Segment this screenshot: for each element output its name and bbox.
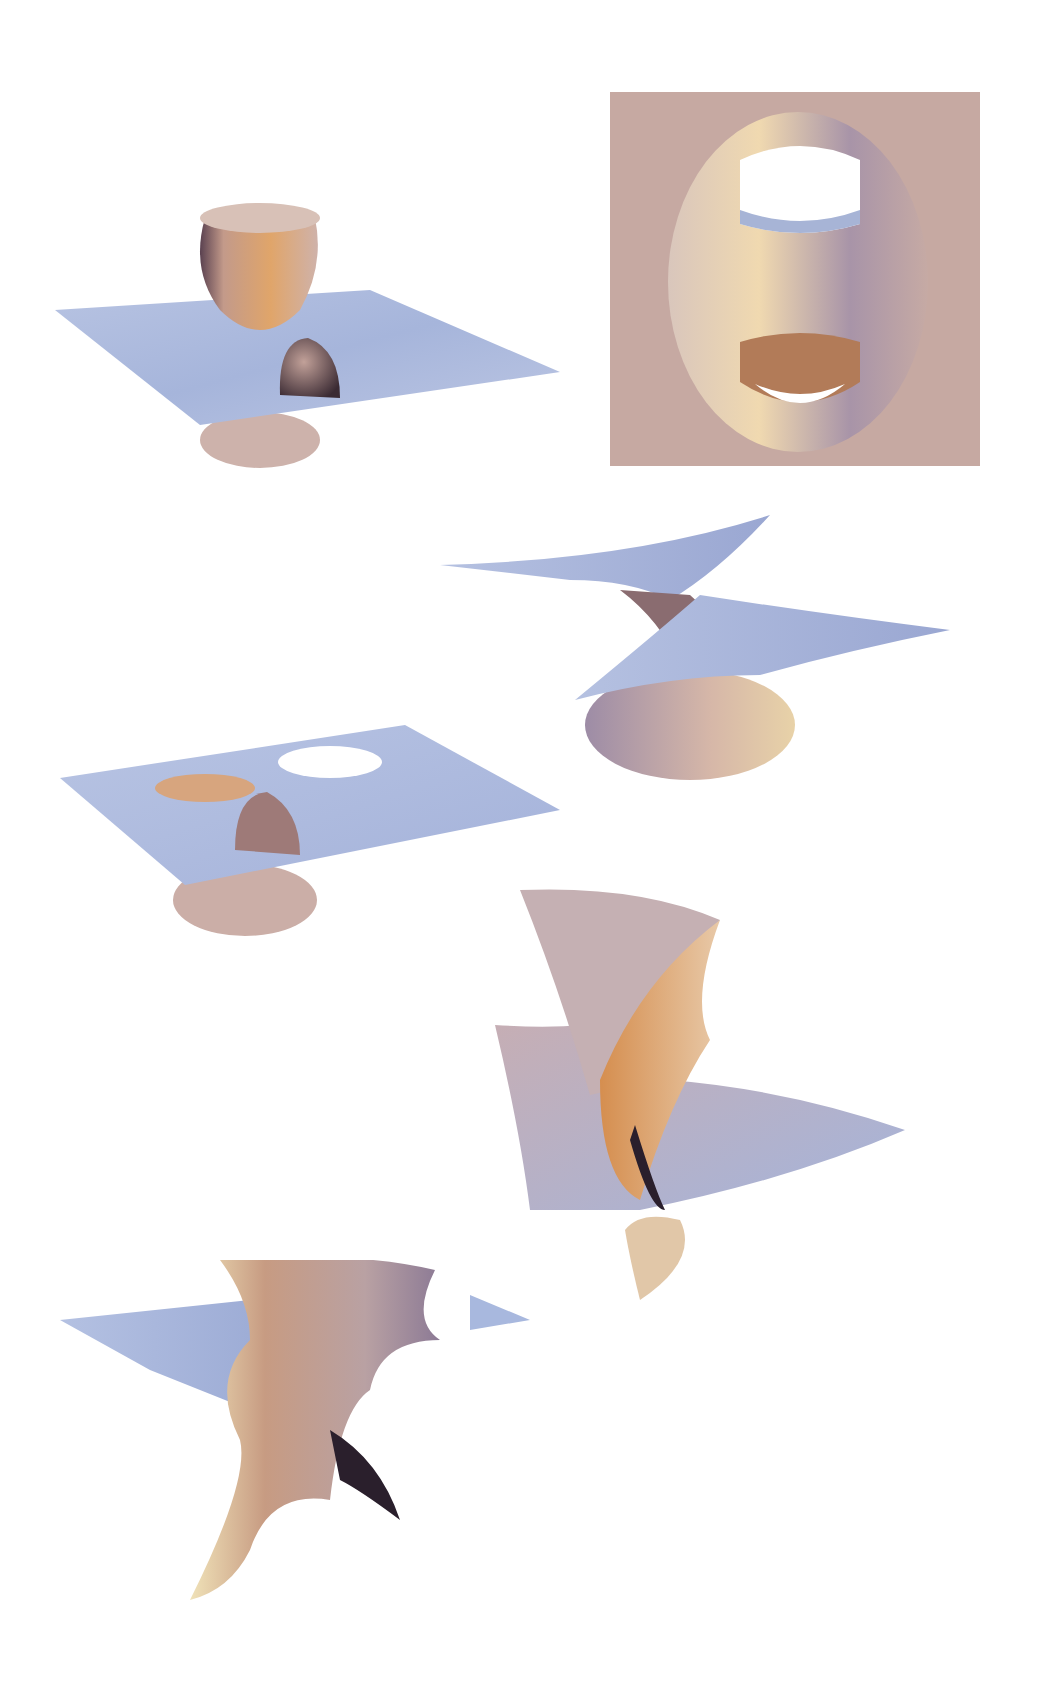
surface-figure-1	[50, 200, 590, 480]
surface-render-4	[55, 720, 565, 940]
surface-figure-4	[55, 720, 565, 940]
surface-figure-2	[610, 92, 980, 466]
surface-render-2	[610, 92, 980, 466]
surface-render-5	[490, 880, 930, 1300]
surface-render-1	[50, 200, 590, 480]
surface-figure-6	[50, 1260, 550, 1600]
surface-figure-5	[490, 880, 930, 1300]
surface-render-6	[50, 1260, 550, 1600]
